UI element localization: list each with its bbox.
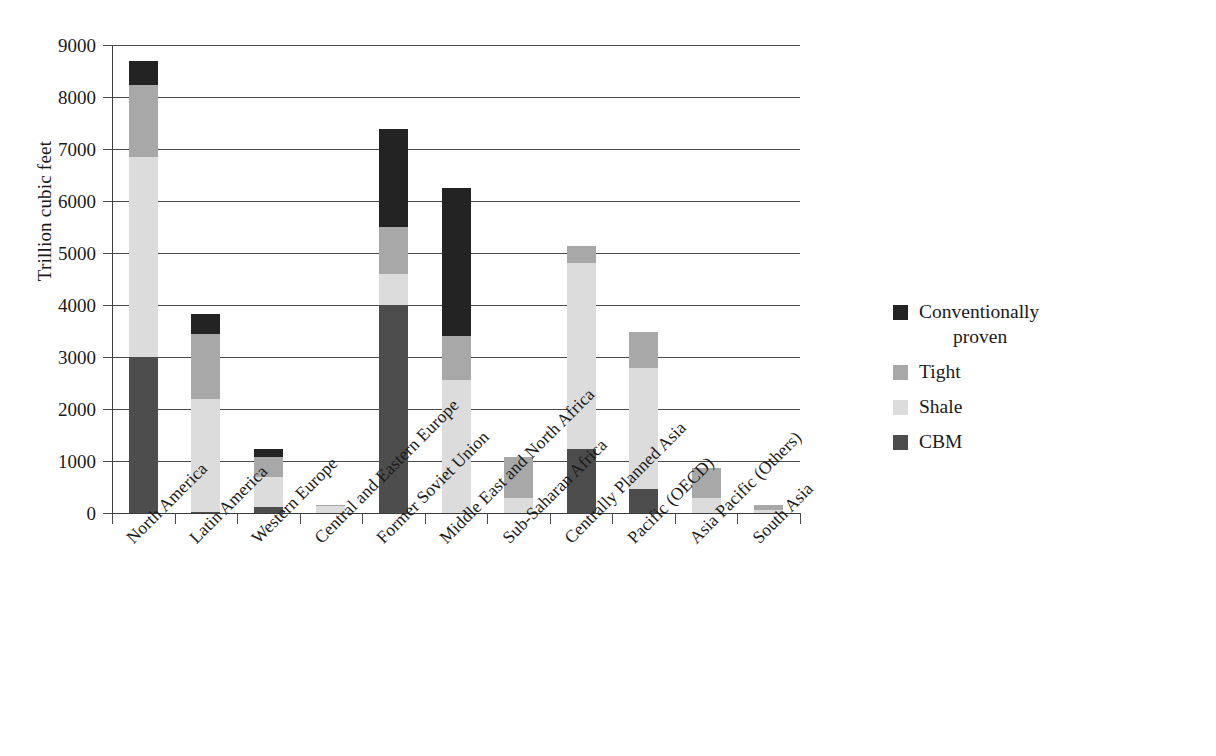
y-tick-label: 8000	[32, 88, 96, 107]
chart-legend: ConventionallyprovenTightShaleCBM	[893, 300, 1193, 465]
x-tick-mark	[800, 513, 801, 524]
bar-segment[interactable]	[191, 314, 220, 334]
y-tick-mark	[103, 45, 113, 46]
bar-segment[interactable]	[191, 399, 220, 512]
y-tick-mark	[103, 149, 113, 150]
bar-segment[interactable]	[379, 129, 408, 227]
legend-item[interactable]: CBM	[893, 430, 1193, 455]
legend-label: CBM	[919, 430, 962, 455]
legend-label: Shale	[919, 395, 962, 420]
bar-segment[interactable]	[442, 188, 471, 336]
bar-segment[interactable]	[254, 449, 283, 457]
x-tick-mark	[112, 513, 113, 524]
chart-figure: Trillion cubic feet 01000200030004000500…	[0, 0, 1216, 756]
gridline	[112, 97, 800, 98]
y-tick-label: 0	[32, 504, 96, 523]
legend-item[interactable]: Shale	[893, 395, 1193, 420]
legend-item[interactable]: Tight	[893, 360, 1193, 385]
plot-area: 0100020003000400050006000700080009000	[112, 45, 800, 513]
x-tick-mark	[362, 513, 363, 524]
gridline	[112, 45, 800, 46]
y-tick-mark	[103, 409, 113, 410]
y-tick-label: 1000	[32, 452, 96, 471]
bar-segment[interactable]	[129, 157, 158, 357]
x-tick-mark	[737, 513, 738, 524]
y-tick-mark	[103, 461, 113, 462]
y-tick-label: 3000	[32, 348, 96, 367]
x-tick-mark	[425, 513, 426, 524]
bar-segment[interactable]	[129, 85, 158, 157]
bar-segment[interactable]	[379, 227, 408, 274]
y-tick-label: 7000	[32, 140, 96, 159]
legend-swatch	[893, 305, 908, 320]
bar-segment[interactable]	[567, 246, 596, 264]
x-tick-mark	[175, 513, 176, 524]
legend-swatch	[893, 435, 908, 450]
bar-segment[interactable]	[629, 332, 658, 368]
y-tick-label: 4000	[32, 296, 96, 315]
bar-stack[interactable]	[129, 61, 158, 513]
x-tick-mark	[300, 513, 301, 524]
legend-swatch	[893, 400, 908, 415]
legend-label: Conventionallyproven	[919, 300, 1039, 350]
gridline	[112, 149, 800, 150]
y-tick-label: 2000	[32, 400, 96, 419]
y-tick-label: 6000	[32, 192, 96, 211]
x-tick-mark	[550, 513, 551, 524]
y-tick-mark	[103, 305, 113, 306]
x-tick-mark	[237, 513, 238, 524]
x-tick-mark	[675, 513, 676, 524]
y-tick-mark	[103, 357, 113, 358]
bar-segment[interactable]	[191, 334, 220, 399]
y-tick-label: 9000	[32, 36, 96, 55]
bar-segment[interactable]	[129, 61, 158, 85]
legend-swatch	[893, 365, 908, 380]
x-tick-mark	[612, 513, 613, 524]
x-tick-mark	[487, 513, 488, 524]
y-tick-mark	[103, 253, 113, 254]
legend-item[interactable]: Conventionallyproven	[893, 300, 1193, 350]
bar-segment[interactable]	[442, 336, 471, 380]
y-tick-mark	[103, 97, 113, 98]
y-tick-label: 5000	[32, 244, 96, 263]
bar-segment[interactable]	[129, 357, 158, 513]
bar-segment[interactable]	[379, 274, 408, 305]
y-axis-line	[112, 45, 113, 513]
legend-label: Tight	[919, 360, 961, 385]
y-tick-mark	[103, 201, 113, 202]
y-axis-title: Trillion cubic feet	[34, 91, 56, 331]
